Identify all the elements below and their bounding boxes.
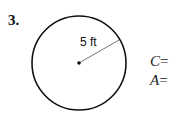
area-equation: A=	[150, 72, 168, 89]
radius-label: 5 ft	[80, 35, 97, 49]
area-var: A	[150, 72, 159, 88]
circumference-var: C	[150, 53, 160, 69]
center-point	[77, 61, 81, 65]
equals-sign: =	[159, 72, 167, 88]
equals-sign: =	[160, 53, 168, 69]
circumference-equation: C=	[150, 53, 168, 70]
